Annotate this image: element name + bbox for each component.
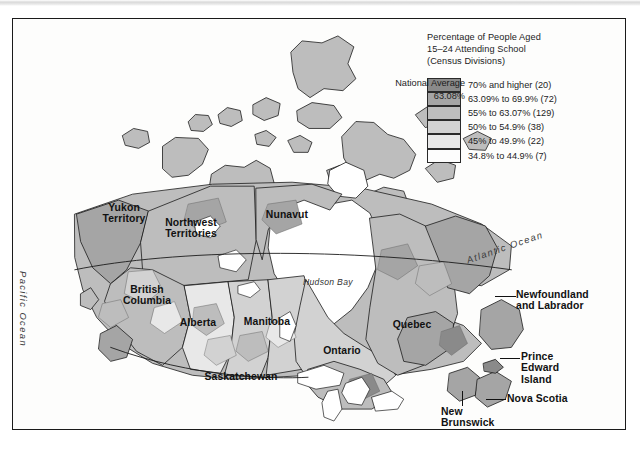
leader-line-new-brunswick <box>462 391 463 406</box>
page-edge-strip <box>0 0 640 6</box>
region-prince-edward-island <box>483 359 503 373</box>
map-label-british-columbia: British Columbia <box>109 284 185 307</box>
region-arctic-island-b <box>123 128 150 148</box>
map-label-nova-scotia: Nova Scotia <box>507 393 591 404</box>
legend-swatch-34-to-44 <box>427 149 461 163</box>
map-label-alberta: Alberta <box>167 317 229 328</box>
legend-label-55-to-63: 55% to 63.07% (129) <box>461 106 554 120</box>
region-arctic-ellesmere-island <box>291 36 356 98</box>
region-arctic-banks-island <box>163 137 209 177</box>
region-arctic-island-i <box>426 159 456 182</box>
map-label-northwest-territories: Northwest Territories <box>148 217 234 240</box>
map-label-pacific-ocean: Pacific Ocean <box>18 271 29 347</box>
leader-line-prince-edward-island <box>500 358 520 359</box>
map-label-newfoundland-and-labrador: Newfoundland and Labrador <box>516 289 620 312</box>
region-arctic-island-f <box>255 130 276 146</box>
map-label-quebec: Quebec <box>381 319 443 330</box>
legend-label-70-and-higher: 70% and higher (20) <box>461 78 551 92</box>
legend-swatch-55-to-63 <box>427 106 461 120</box>
legend-item: 55% to 63.07% (129) <box>427 106 619 120</box>
map-label-new-brunswick: New Brunswick <box>441 406 513 429</box>
region-arctic-island-d <box>253 98 280 121</box>
region-arctic-island-c <box>218 108 242 127</box>
legend-label-63-to-69: 63.09% to 69.9% (72) <box>461 92 557 106</box>
legend-item: 50% to 54.9% (38) <box>427 120 619 134</box>
region-new-brunswick <box>448 367 480 401</box>
map-label-saskatchewan: Saskatchewan <box>191 371 291 382</box>
legend-label-50-to-54: 50% to 54.9% (38) <box>461 120 544 134</box>
legend-item: 34.8% to 44.9% (7) <box>427 149 619 163</box>
map-label-manitoba: Manitoba <box>227 316 307 327</box>
legend-label-45-to-49: 45% to 49.9% (22) <box>461 134 544 148</box>
region-arctic-island-a <box>188 115 212 132</box>
leader-line-nova-scotia <box>486 399 506 400</box>
region-arctic-devon-island <box>297 103 342 129</box>
region-nova-scotia <box>475 371 511 407</box>
map-label-hudson-bay: Hudson Bay <box>303 277 353 287</box>
map-label-prince-edward-island: Prince Edward Island <box>521 351 585 385</box>
map-label-ontario: Ontario <box>309 345 375 356</box>
legend-title: Percentage of People Aged 15–24 Attendin… <box>427 31 619 68</box>
map-label-nunavut: Nunavut <box>249 209 325 220</box>
national-average-annotation: National Average 63.08% <box>365 77 465 102</box>
map-figure: Yukon Territory Northwest Territories Nu… <box>12 18 626 430</box>
leader-line-newfoundland <box>495 296 516 297</box>
region-arctic-island-e <box>288 135 312 152</box>
legend-swatch-50-to-54 <box>427 120 461 134</box>
legend-label-34-to-44: 34.8% to 44.9% (7) <box>461 149 547 163</box>
legend-item: 45% to 49.9% (22) <box>427 134 619 148</box>
legend-swatch-45-to-49 <box>427 134 461 148</box>
